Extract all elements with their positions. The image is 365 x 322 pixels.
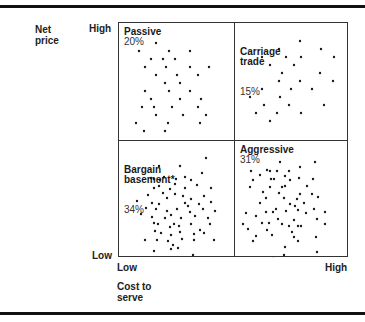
- y-axis-low-label: Low: [92, 250, 112, 261]
- passive-dots: [135, 42, 210, 132]
- y-axis-title: Net price: [35, 24, 59, 46]
- top-rule: [0, 5, 365, 8]
- scatter-dots: [119, 23, 349, 258]
- aggressive-dots: [242, 161, 326, 258]
- bargain-basement-dots: [136, 157, 216, 256]
- x-axis-low-label: Low: [117, 262, 137, 273]
- bottom-rule: [0, 312, 365, 315]
- x-axis-title: Cost to serve: [117, 281, 151, 303]
- quadrant-grid: Passive 20% Carriage trade 15% Bargain b…: [118, 22, 348, 257]
- carriage-trade-dots: [249, 40, 335, 122]
- y-axis-high-label: High: [89, 23, 111, 34]
- x-axis-high-label: High: [325, 262, 347, 273]
